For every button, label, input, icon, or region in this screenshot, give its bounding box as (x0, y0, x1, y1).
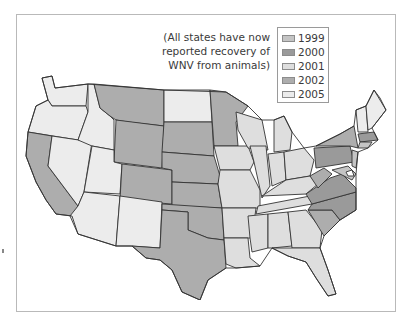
state-florida (272, 248, 336, 296)
map-note: (All states have now reported recovery o… (160, 30, 270, 72)
state-new-york (316, 126, 358, 148)
state-north-dakota (164, 90, 212, 122)
us-map (22, 70, 392, 300)
stray-mark (2, 249, 4, 253)
legend-swatch-2001 (282, 63, 295, 70)
state-connecticut (358, 142, 372, 148)
state-wyoming (114, 120, 164, 168)
state-kansas (172, 182, 222, 208)
legend-swatch-2000 (282, 49, 295, 56)
state-pennsylvania (314, 146, 354, 168)
note-line-1: (All states have now (160, 30, 270, 44)
legend-label: 2000 (298, 46, 325, 58)
state-missouri (218, 170, 260, 208)
state-iowa (214, 146, 254, 170)
note-line-2: reported recovery of (160, 44, 270, 58)
state-maine (366, 90, 386, 130)
state-south-dakota (162, 122, 214, 156)
state-indiana (268, 152, 286, 186)
state-wisconsin (236, 112, 268, 150)
state-new-mexico (116, 196, 162, 248)
legend-label: 1999 (298, 32, 325, 44)
legend-item-1999: 1999 (282, 31, 328, 45)
state-ohio (284, 148, 314, 180)
state-michigan (274, 116, 292, 152)
legend-item-2000: 2000 (282, 45, 328, 59)
legend-swatch-1999 (282, 35, 295, 42)
state-mississippi (248, 214, 268, 252)
